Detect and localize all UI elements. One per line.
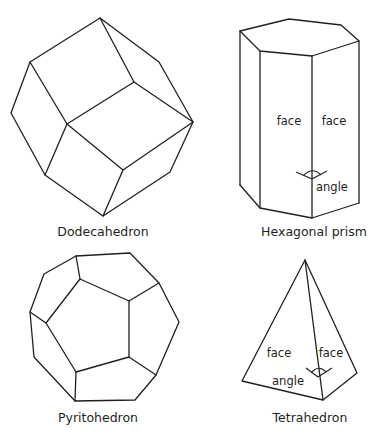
pyritohedron-figure: Pyritohedron bbox=[30, 253, 179, 425]
pyritohedron-edge bbox=[129, 283, 159, 301]
hexagonal-prism-caption: Hexagonal prism bbox=[261, 224, 367, 239]
pyritohedron-edge bbox=[30, 312, 46, 323]
prism-top-face bbox=[240, 19, 359, 56]
dodecahedron-caption: Dodecahedron bbox=[57, 224, 148, 239]
dodecahedron-outline bbox=[11, 18, 193, 216]
pyritohedron-outline bbox=[30, 253, 179, 401]
dodecahedron-edge bbox=[30, 62, 193, 124]
hexagonal-prism-figure: face face angle Hexagonal prism bbox=[240, 19, 367, 239]
tetrahedron-figure: face face angle Tetrahedron bbox=[242, 260, 357, 425]
pyritohedron-edge bbox=[76, 256, 80, 279]
crystal-shapes-diagram: Dodecahedron face face angle Hexagonal p… bbox=[0, 0, 378, 441]
pyritohedron-edge bbox=[129, 357, 156, 375]
dodecahedron-edge bbox=[100, 18, 134, 82]
pyritohedron-edge bbox=[75, 372, 76, 401]
tetrahedron-angle-label: angle bbox=[272, 374, 304, 388]
dodecahedron-edge bbox=[45, 124, 67, 175]
tetrahedron-face-label-left: face bbox=[267, 346, 292, 360]
tetrahedron-face-label-right: face bbox=[319, 346, 344, 360]
prism-face-label-right: face bbox=[322, 114, 347, 128]
prism-face-label-left: face bbox=[277, 114, 302, 128]
tetrahedron-caption: Tetrahedron bbox=[272, 410, 348, 425]
pyritohedron-caption: Pyritohedron bbox=[58, 410, 138, 425]
pyritohedron-central-face bbox=[46, 279, 129, 372]
prism-angle-label: angle bbox=[316, 180, 348, 194]
dodecahedron-figure: Dodecahedron bbox=[11, 18, 193, 239]
